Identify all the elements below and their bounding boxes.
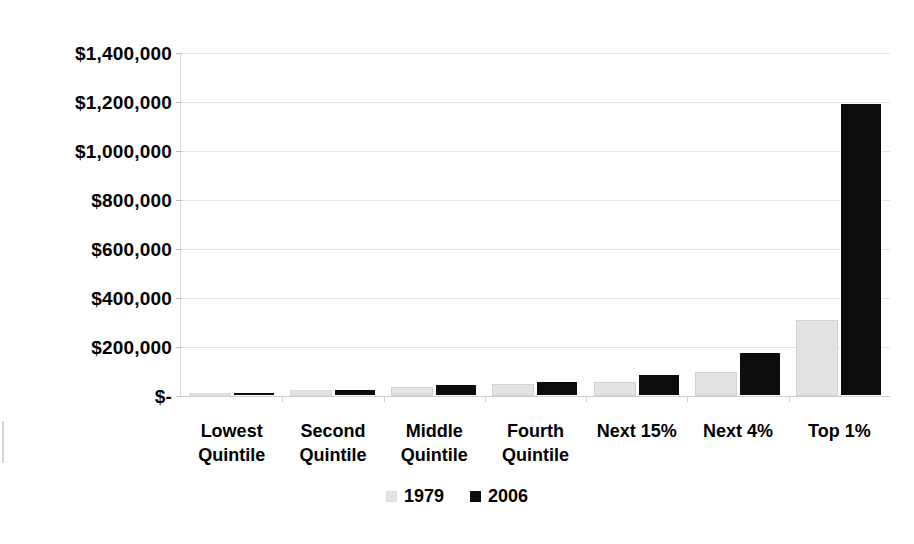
y-axis-tick-mark xyxy=(176,102,182,103)
x-axis-category-label: Top 1% xyxy=(789,419,890,443)
bar-2006-next-4[interactable] xyxy=(739,352,781,396)
bar-1979-top-1[interactable] xyxy=(796,320,838,396)
bar-group xyxy=(789,53,890,396)
y-axis-tick-label: $- xyxy=(0,387,172,406)
y-axis-tick-label: $600,000 xyxy=(0,240,172,259)
bar-2006-second-quintile[interactable] xyxy=(334,389,376,396)
category-label-line: Next 4% xyxy=(687,419,788,443)
y-axis-tick-mark xyxy=(176,151,182,152)
bar-group xyxy=(586,53,687,396)
y-axis-tick-mark xyxy=(176,347,182,348)
y-axis-tick-label: $1,400,000 xyxy=(0,44,172,63)
category-label-line: Quintile xyxy=(282,443,383,467)
category-label-line: Top 1% xyxy=(789,419,890,443)
legend-label-2006: 2006 xyxy=(488,487,528,505)
legend-swatch-1979-icon xyxy=(386,491,397,502)
bar-group xyxy=(282,53,383,396)
category-label-line: Quintile xyxy=(181,443,282,467)
bar-group xyxy=(384,53,485,396)
category-label-line: Middle xyxy=(384,419,485,443)
bar-chart: $-$200,000$400,000$600,000$800,000$1,000… xyxy=(0,0,914,544)
y-axis: $-$200,000$400,000$600,000$800,000$1,000… xyxy=(0,0,172,430)
bar-group xyxy=(687,53,788,396)
y-axis-tick-mark xyxy=(176,298,182,299)
x-axis-category-label: Next 15% xyxy=(586,419,687,443)
x-axis-tick-mark xyxy=(586,396,587,402)
bar-2006-next-15[interactable] xyxy=(638,374,680,396)
x-axis-category-label: MiddleQuintile xyxy=(384,419,485,467)
x-axis-category-label: Next 4% xyxy=(687,419,788,443)
y-axis-tick-mark xyxy=(176,200,182,201)
x-axis-category-label: SecondQuintile xyxy=(282,419,383,467)
x-axis-tick-mark xyxy=(282,396,283,402)
x-axis-tick-mark xyxy=(789,396,790,402)
legend-label-1979: 1979 xyxy=(404,487,444,505)
bar-1979-next-15[interactable] xyxy=(594,382,636,396)
bar-group xyxy=(181,53,282,396)
bar-1979-next-4[interactable] xyxy=(695,372,737,396)
category-label-line: Next 15% xyxy=(586,419,687,443)
y-axis-tick-label: $1,200,000 xyxy=(0,93,172,112)
bar-1979-second-quintile[interactable] xyxy=(290,390,332,396)
legend-swatch-2006-icon xyxy=(470,491,481,502)
y-axis-tick-label: $800,000 xyxy=(0,191,172,210)
y-axis-tick-label: $1,000,000 xyxy=(0,142,172,161)
legend-item-2006[interactable]: 2006 xyxy=(470,487,528,505)
category-label-line: Second xyxy=(282,419,383,443)
bar-1979-middle-quintile[interactable] xyxy=(391,387,433,396)
bar-group xyxy=(485,53,586,396)
bar-2006-top-1[interactable] xyxy=(840,103,882,396)
y-axis-tick-mark xyxy=(176,53,182,54)
x-axis-category-label: FourthQuintile xyxy=(485,419,586,467)
x-axis-tick-mark xyxy=(485,396,486,402)
y-axis-tick-mark xyxy=(176,249,182,250)
x-axis-tick-mark xyxy=(384,396,385,402)
y-axis-tick-mark xyxy=(176,396,182,397)
x-axis-categories: LowestQuintileSecondQuintileMiddleQuinti… xyxy=(181,419,890,475)
category-label-line: Fourth xyxy=(485,419,586,443)
chart-legend: 1979 2006 xyxy=(0,487,914,505)
bars-layer xyxy=(181,0,890,397)
bar-1979-fourth-quintile[interactable] xyxy=(492,384,534,396)
y-axis-tick-label: $400,000 xyxy=(0,289,172,308)
legend-item-1979[interactable]: 1979 xyxy=(386,487,444,505)
bar-2006-fourth-quintile[interactable] xyxy=(536,381,578,396)
x-axis-category-label: LowestQuintile xyxy=(181,419,282,467)
category-label-line: Quintile xyxy=(384,443,485,467)
category-label-line: Lowest xyxy=(181,419,282,443)
y-axis-tick-label: $200,000 xyxy=(0,338,172,357)
bar-2006-middle-quintile[interactable] xyxy=(435,384,477,396)
bar-2006-lowest-quintile[interactable] xyxy=(233,392,275,396)
bar-1979-lowest-quintile[interactable] xyxy=(189,393,231,396)
category-label-line: Quintile xyxy=(485,443,586,467)
x-axis-tick-mark xyxy=(687,396,688,402)
